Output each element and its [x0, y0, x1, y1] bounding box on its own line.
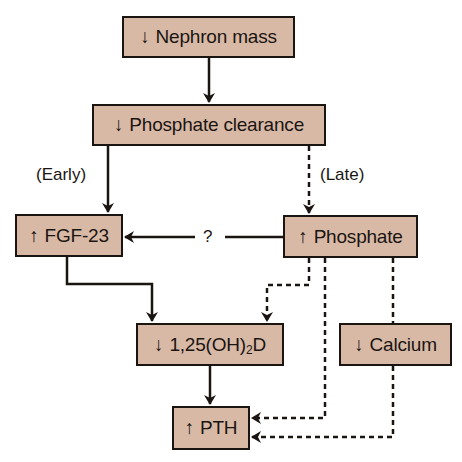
- node-fgf23: ↑ FGF-23: [15, 214, 123, 257]
- node-label: 1,25(OH)2D: [169, 334, 266, 356]
- up-arrow-icon: ↑: [185, 417, 194, 439]
- node-nephron-mass: ↓ Nephron mass: [122, 16, 295, 58]
- node-label: FGF-23: [45, 225, 109, 247]
- node-label: Phosphate: [314, 226, 403, 248]
- up-arrow-icon: ↑: [298, 226, 307, 248]
- edge-calcium-to-pth: [252, 366, 393, 437]
- node-calcitriol: ↓ 1,25(OH)2D: [136, 323, 284, 366]
- node-phosphate: ↑ Phosphate: [283, 215, 418, 258]
- down-arrow-icon: ↓: [354, 334, 363, 356]
- node-phosphate-clearance: ↓ Phosphate clearance: [92, 104, 326, 146]
- node-pth: ↑ PTH: [172, 406, 250, 450]
- edge-fgf23-to-vitd: [67, 257, 152, 321]
- up-arrow-icon: ↑: [29, 225, 38, 247]
- down-arrow-icon: ↓: [140, 26, 149, 48]
- edge-label-early: (Early): [36, 165, 86, 185]
- edge-label-late: (Late): [320, 165, 364, 185]
- edge-label-question: ?: [203, 227, 212, 247]
- node-label: Phosphate clearance: [129, 114, 304, 136]
- node-label: Nephron mass: [156, 26, 277, 48]
- node-calcium: ↓ Calcium: [339, 323, 452, 366]
- node-label: PTH: [200, 417, 237, 439]
- down-arrow-icon: ↓: [154, 334, 163, 356]
- edge-phosphate-to-vitd: [267, 258, 309, 321]
- down-arrow-icon: ↓: [114, 114, 123, 136]
- node-label: Calcium: [370, 334, 437, 356]
